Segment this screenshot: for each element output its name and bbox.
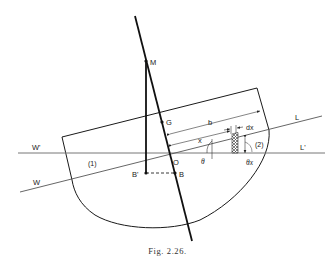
point-b [173, 171, 176, 174]
label-b: B [179, 170, 184, 179]
centerline-axis [135, 16, 192, 241]
label-m: M [150, 58, 156, 67]
theta-angle-arc [207, 141, 212, 153]
point-b-prime [144, 171, 147, 174]
point-g [160, 120, 163, 123]
elemental-strip [232, 133, 238, 154]
label-theta: θ [201, 157, 205, 166]
label-l-prime: L' [300, 143, 306, 152]
label-theta-x: θx [246, 158, 254, 167]
label-b-dim: b [208, 118, 212, 127]
label-dx: dx [246, 124, 254, 131]
waterline-w-l [20, 116, 322, 192]
label-region-1: (1) [88, 160, 97, 168]
stability-diagram: M G O B B' W' W L L' b x dx θ θx (1) (2) [0, 0, 335, 265]
label-region-2: (2) [255, 141, 264, 149]
label-x-dim: x [198, 136, 202, 145]
point-m [144, 59, 147, 62]
label-g: G [166, 118, 172, 127]
label-w-prime: W' [32, 143, 41, 152]
label-b-prime: B' [132, 170, 139, 179]
label-o: O [173, 158, 179, 167]
figure-caption: Fig. 2.26. [0, 246, 335, 256]
hull-outline [62, 88, 269, 228]
label-w: W [33, 178, 41, 187]
label-l: L [295, 113, 299, 122]
